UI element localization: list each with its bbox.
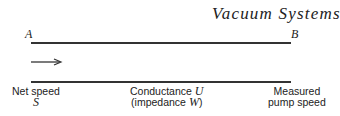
net-speed-symbol: S bbox=[12, 97, 60, 108]
impedance-text: (impedance bbox=[131, 96, 189, 108]
net-speed-label: Net speed S bbox=[12, 86, 60, 108]
page-title: Vacuum Systems bbox=[212, 4, 340, 24]
pipe-top-wall bbox=[31, 42, 291, 44]
right-arrow-icon bbox=[30, 57, 64, 67]
conductance-label: Conductance U (impedance W) bbox=[130, 86, 203, 108]
impedance-symbol: W bbox=[189, 95, 199, 109]
pipe-bottom-wall bbox=[31, 81, 291, 83]
impedance-line: (impedance W) bbox=[130, 97, 203, 108]
measured-pump-speed-label: Measured pump speed bbox=[268, 86, 326, 108]
point-b-label: B bbox=[291, 27, 298, 42]
point-a-label: A bbox=[25, 27, 32, 42]
impedance-close: ) bbox=[199, 96, 203, 108]
pump-speed-text: pump speed bbox=[268, 97, 326, 108]
